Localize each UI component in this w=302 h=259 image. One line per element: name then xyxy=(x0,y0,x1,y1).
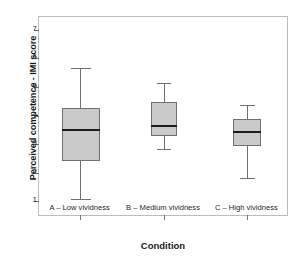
whisker-cap-lower xyxy=(240,178,255,179)
y-tick-label: 5 xyxy=(33,81,37,90)
y-tick-label: 1 xyxy=(33,195,37,204)
whisker-cap-lower xyxy=(157,149,171,150)
whisker-cap-upper xyxy=(240,105,255,106)
plot-frame: 1234567 xyxy=(38,16,288,216)
x-tick-label-b: B – Medium vividness xyxy=(126,203,200,212)
y-tick-label: 3 xyxy=(33,138,37,147)
x-tick-label-c: C – High vividness xyxy=(215,203,278,212)
plot-area: 1234567 xyxy=(39,17,287,215)
whisker-cap-lower xyxy=(71,199,91,200)
median-line xyxy=(233,131,261,133)
box-b xyxy=(151,102,177,135)
whisker-cap-upper xyxy=(71,68,91,69)
box-a xyxy=(62,108,100,161)
boxplot-figure: Perceived competence - IMI score 1234567… xyxy=(0,0,302,259)
y-tick-label: 4 xyxy=(33,110,37,119)
whisker-cap-upper xyxy=(157,83,171,84)
y-tick-label: 2 xyxy=(33,167,37,176)
median-line xyxy=(62,129,100,131)
median-line xyxy=(151,125,177,127)
x-tick-mark xyxy=(247,215,248,220)
x-tick-label-a: A – Low vividness xyxy=(49,203,109,212)
x-axis-title: Condition xyxy=(38,240,288,251)
x-tick-mark xyxy=(80,215,81,220)
y-tick-label: 6 xyxy=(33,52,37,61)
x-tick-mark xyxy=(164,215,165,220)
y-tick-label: 7 xyxy=(33,24,37,33)
